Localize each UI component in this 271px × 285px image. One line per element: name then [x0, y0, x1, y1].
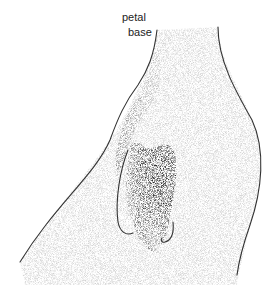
- petal-base-illustration: [0, 0, 271, 285]
- label-petal: petal: [122, 11, 146, 24]
- label-base: base: [128, 26, 152, 39]
